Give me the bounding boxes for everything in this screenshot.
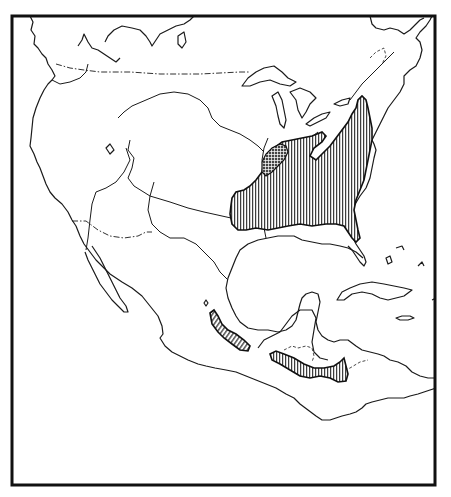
- coastline-baja: [85, 246, 128, 312]
- border-us-mexico: [72, 221, 152, 238]
- lake-huron: [290, 88, 316, 118]
- coastline-gulf: [226, 236, 436, 378]
- lake-erie: [306, 112, 330, 126]
- island-jamaica: [396, 316, 414, 320]
- coastline-north-2: [78, 34, 120, 62]
- coastline-labrador: [370, 16, 424, 34]
- river-st-lawrence: [350, 52, 394, 100]
- lake-michigan: [272, 92, 286, 128]
- island-bahamas-1: [386, 256, 392, 264]
- river-missouri: [118, 92, 264, 152]
- river-columbia: [52, 64, 88, 84]
- great-salt-lake: [106, 144, 114, 154]
- lake-superior: [242, 66, 296, 86]
- range-central-america: [270, 351, 348, 382]
- range-mexico: [210, 310, 250, 351]
- lake-winnipeg: [178, 32, 186, 48]
- lake-ontario: [334, 98, 350, 106]
- coastline-north: [105, 16, 194, 46]
- border-maine: [370, 48, 386, 68]
- range-mexico-dot: [204, 300, 208, 306]
- river-rio-grande: [148, 182, 228, 280]
- range-map: [0, 0, 451, 497]
- range-eastern-us: [230, 96, 372, 242]
- map-canvas: [0, 0, 451, 497]
- map-frame-border: [12, 16, 435, 485]
- island-bahamas-2: [396, 246, 404, 250]
- island-bahamas-3: [418, 262, 424, 266]
- island-cuba: [337, 282, 412, 300]
